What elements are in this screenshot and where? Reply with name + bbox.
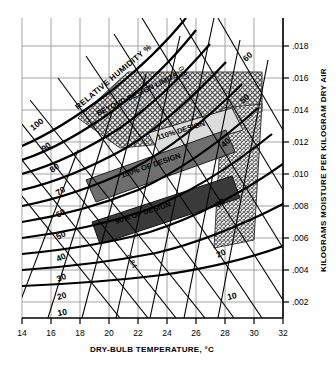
- y-tick-label: .012: [292, 137, 309, 147]
- chart-svg: 14 16 18 20 22 24 26 28 30 32 .002 .004 …: [0, 0, 336, 371]
- y-tick-label: .014: [292, 105, 309, 115]
- x-tick-label: 18: [75, 328, 85, 338]
- chart-background: [0, 0, 336, 371]
- rh-label-10: 10: [57, 306, 68, 318]
- y-tick-label: .008: [292, 201, 309, 211]
- y-tick-label: .010: [292, 169, 309, 179]
- psychrometric-chart: 14 16 18 20 22 24 26 28 30 32 .002 .004 …: [0, 0, 336, 371]
- x-tick-label: 16: [46, 328, 56, 338]
- y-tick-label: .002: [292, 297, 309, 307]
- x-axis-title: DRY-BULB TEMPERATURE, °C: [90, 345, 214, 354]
- y-axis-tick-labels: .002 .004 .006 .008 .010 .012 .014 .016 …: [292, 41, 309, 307]
- y-axis-title: KILOGRAMS MOISTURE PER KILOGRAM DRY AIR: [319, 68, 328, 272]
- x-tick-label: 14: [17, 328, 27, 338]
- x-tick-label: 28: [220, 328, 230, 338]
- x-tick-label: 22: [133, 328, 143, 338]
- y-tick-label: .016: [292, 73, 309, 83]
- y-tick-label: .018: [292, 41, 309, 51]
- x-tick-label: 24: [162, 328, 172, 338]
- x-tick-label: 26: [191, 328, 201, 338]
- x-tick-label: 32: [278, 328, 288, 338]
- y-tick-label: .006: [292, 233, 309, 243]
- y-tick-label: .004: [292, 265, 309, 275]
- x-tick-label: 30: [249, 328, 259, 338]
- x-tick-label: 20: [104, 328, 114, 338]
